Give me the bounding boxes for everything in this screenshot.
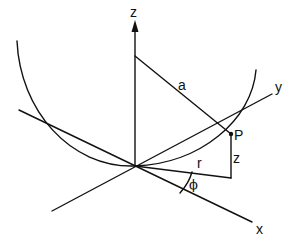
radius-r-label: r [197,155,202,171]
x-axis-label: x [256,221,263,237]
sphere-arc [17,41,256,166]
point-p [229,132,233,136]
radius-a-line [135,56,231,134]
y-axis-label: y [275,79,282,95]
z-axis-label: z [130,4,137,20]
point-p-label: P [234,127,243,143]
z-axis-arrowhead [132,20,139,32]
height-z-label: z [233,150,240,166]
coordinate-diagram: z y x a P z r ϕ [0,0,299,244]
radius-a-label: a [178,77,186,93]
phi-angle-label: ϕ [189,177,198,192]
